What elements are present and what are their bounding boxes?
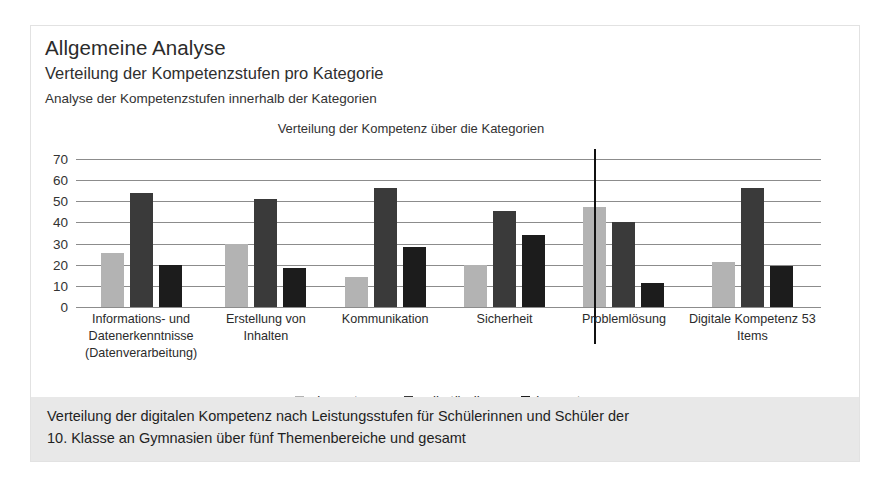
bar-groups <box>76 159 821 307</box>
bar-group <box>76 159 206 307</box>
bar-group <box>206 159 325 307</box>
x-axis-label-line: Problemlösung <box>566 311 681 328</box>
y-axis-tick-label: 10 <box>30 278 68 293</box>
figure-caption: Verteilung der digitalen Kompetenz nach … <box>31 397 860 461</box>
chart-title: Verteilung der Kompetenz über die Katego… <box>31 121 791 136</box>
bar-kompetenz <box>641 283 664 307</box>
x-axis-label-line: Sicherheit <box>447 311 562 328</box>
bar-group <box>564 159 683 307</box>
caption-line-2: 10. Klasse an Gymnasien über fünf Themen… <box>47 428 845 450</box>
bar-elementar <box>712 262 735 307</box>
bar-elementar <box>225 244 248 307</box>
y-axis-tick-label: 0 <box>30 300 68 315</box>
header-block: Allgemeine Analyse Verteilung der Kompet… <box>45 36 745 109</box>
x-axis-category-label: Informations- undDatenerkenntnisse(Daten… <box>76 311 206 362</box>
bar-kompetenz <box>159 265 182 307</box>
x-axis-category-label: Sicherheit <box>445 311 564 362</box>
x-axis-labels: Informations- undDatenerkenntnisse(Daten… <box>76 311 821 362</box>
page-description: Analyse der Kompetenzstufen innerhalb de… <box>45 90 745 109</box>
page-root: Allgemeine Analyse Verteilung der Kompet… <box>0 0 890 490</box>
bar-group <box>326 159 445 307</box>
bar-elementar <box>101 253 124 307</box>
x-axis-label-line: Items <box>686 328 819 345</box>
bar-kompetenz <box>770 266 793 307</box>
bar-kompetenz <box>403 247 426 307</box>
page-title: Allgemeine Analyse <box>45 36 745 61</box>
bar-elementar <box>464 265 487 307</box>
bar-kompetenz <box>522 235 545 307</box>
y-axis-labels: 010203040506070 <box>30 159 68 307</box>
x-axis-label-line: (Datenverarbeitung) <box>78 345 204 362</box>
caption-line-1: Verteilung der digitalen Kompetenz nach … <box>47 406 845 428</box>
bar-elementar <box>345 277 368 307</box>
x-axis-label-line: Erstellung von Inhalten <box>208 311 323 345</box>
x-axis-label-line: Digitale Kompetenz 53 <box>686 311 819 328</box>
x-axis-label-line: Datenerkenntnisse <box>78 328 204 345</box>
plot-area <box>76 159 821 307</box>
bar-selbständig <box>130 193 153 307</box>
analysis-card: Allgemeine Analyse Verteilung der Kompet… <box>30 25 860 462</box>
x-axis-category-label: Digitale Kompetenz 53Items <box>684 311 821 362</box>
x-axis-category-label: Problemlösung <box>564 311 683 362</box>
bar-selbständig <box>612 222 635 307</box>
bar-group <box>683 159 821 307</box>
x-axis-label-line: Kommunikation <box>328 311 443 328</box>
y-axis-tick-label: 50 <box>30 194 68 209</box>
y-axis-tick-label: 20 <box>30 257 68 272</box>
y-axis-tick-label: 40 <box>30 215 68 230</box>
bar-selbständig <box>254 199 277 307</box>
bar-selbständig <box>493 211 516 307</box>
y-axis-tick-label: 60 <box>30 173 68 188</box>
bar-chart: Verteilung der Kompetenz über die Katego… <box>31 121 860 411</box>
y-axis-tick-label: 30 <box>30 236 68 251</box>
bar-selbständig <box>741 188 764 307</box>
x-axis-label-line: Informations- und <box>78 311 204 328</box>
y-axis-tick-label: 70 <box>30 152 68 167</box>
bar-kompetenz <box>283 268 306 307</box>
bar-selbständig <box>374 188 397 307</box>
page-subtitle: Verteilung der Kompetenzstufen pro Kateg… <box>45 62 745 84</box>
x-axis-category-label: Erstellung von Inhalten <box>206 311 325 362</box>
gridline <box>76 307 821 308</box>
bar-group <box>445 159 564 307</box>
x-axis-category-label: Kommunikation <box>326 311 445 362</box>
